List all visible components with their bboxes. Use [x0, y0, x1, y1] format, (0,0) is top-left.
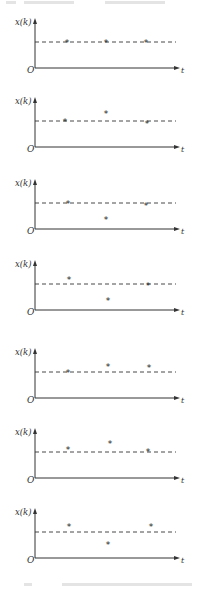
x-axis-label: t — [181, 476, 185, 485]
y-axis-label: x(k) — [15, 96, 32, 106]
x-axis-arrow-icon — [174, 556, 180, 560]
data-point-marker: * — [144, 201, 149, 211]
data-point-marker: * — [144, 38, 149, 48]
data-point-marker: * — [146, 281, 151, 291]
x-axis-label: t — [181, 145, 185, 154]
y-axis-label: x(k) — [15, 178, 32, 188]
cropped-caption — [0, 582, 200, 588]
x-axis-arrow-icon — [174, 227, 180, 231]
y-axis-label: x(k) — [15, 259, 32, 269]
y-axis-arrow-icon — [33, 428, 37, 434]
x-axis-arrow-icon — [174, 66, 180, 70]
x-axis-arrow-icon — [174, 145, 180, 149]
data-point-marker: * — [106, 362, 111, 372]
data-point-marker: * — [104, 109, 109, 119]
y-axis-arrow-icon — [33, 508, 37, 514]
origin-label: O — [27, 475, 35, 485]
y-axis-label: x(k) — [15, 507, 32, 517]
y-axis-arrow-icon — [33, 179, 37, 185]
y-axis-label: x(k) — [15, 347, 32, 357]
data-point-marker: * — [104, 38, 109, 48]
origin-label: O — [27, 395, 35, 405]
x-axis-label: t — [181, 66, 185, 75]
x-axis-label: t — [181, 308, 185, 317]
origin-label: O — [27, 307, 35, 317]
x-axis-label: t — [181, 556, 185, 565]
x-axis-label: t — [181, 396, 185, 405]
x-axis-arrow-icon — [174, 308, 180, 312]
x-axis-arrow-icon — [174, 476, 180, 480]
origin-label: O — [27, 555, 35, 565]
data-point-marker: * — [66, 445, 71, 455]
plot-panel-7: x(k)Ot*** — [0, 504, 200, 568]
data-point-marker: * — [65, 38, 70, 48]
plot-panel-3: x(k)Ot*** — [0, 175, 200, 239]
origin-label: O — [27, 144, 35, 154]
y-axis-arrow-icon — [33, 18, 37, 24]
data-point-marker: * — [108, 439, 113, 449]
x-axis-arrow-icon — [174, 396, 180, 400]
origin-label: O — [27, 65, 35, 75]
data-point-marker: * — [66, 368, 71, 378]
y-axis-arrow-icon — [33, 348, 37, 354]
plot-panel-6: x(k)Ot*** — [0, 424, 200, 488]
x-axis-label: t — [181, 227, 185, 236]
y-axis-label: x(k) — [15, 427, 32, 437]
plot-panel-1: x(k)Ot*** — [0, 14, 200, 78]
plot-panel-4: x(k)Ot*** — [0, 256, 200, 320]
data-point-marker: * — [106, 540, 111, 550]
data-point-marker: * — [63, 117, 68, 127]
data-point-marker: * — [66, 199, 71, 209]
y-axis-arrow-icon — [33, 260, 37, 266]
y-axis-label: x(k) — [15, 17, 32, 27]
plot-panel-5: x(k)Ot*** — [0, 344, 200, 408]
data-point-marker: * — [149, 522, 154, 532]
data-point-marker: * — [104, 215, 109, 225]
plot-panel-2: x(k)Ot*** — [0, 93, 200, 157]
data-point-marker: * — [106, 296, 111, 306]
data-point-marker: * — [145, 119, 150, 129]
cropped-top-text — [0, 0, 200, 6]
y-axis-arrow-icon — [33, 97, 37, 103]
origin-label: O — [27, 226, 35, 236]
data-point-marker: * — [147, 363, 152, 373]
data-point-marker: * — [67, 275, 72, 285]
data-point-marker: * — [146, 447, 151, 457]
data-point-marker: * — [67, 522, 72, 532]
